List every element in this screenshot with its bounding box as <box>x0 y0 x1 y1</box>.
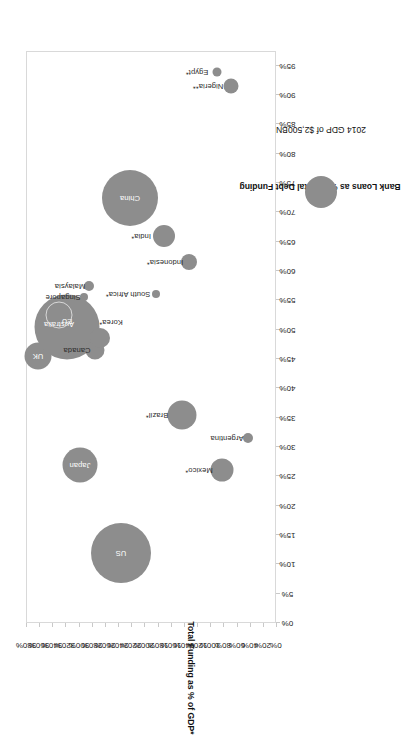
size-legend-label: 2014 GDP of $2,500BN <box>276 125 366 135</box>
bubble-label: Canada <box>64 346 91 355</box>
y-axis-tick <box>276 623 277 627</box>
x-axis-tick-label: 65% <box>279 237 295 246</box>
y-axis-tick <box>79 623 80 627</box>
y-axis-tick <box>223 623 224 627</box>
y-axis-tick <box>197 623 198 627</box>
x-axis-tick-label: 40% <box>279 384 295 393</box>
x-axis-tick-label: 0% <box>282 619 294 628</box>
x-axis-tick-label: 45% <box>279 355 295 364</box>
y-axis-tick <box>52 623 53 627</box>
y-axis-tick <box>184 623 185 627</box>
bubble-label: Korea* <box>99 318 123 327</box>
y-axis-tick <box>144 623 145 627</box>
bubble-label: Egypt* <box>185 67 208 76</box>
x-axis-tick-label: 30% <box>279 443 295 452</box>
x-axis-tick-label: 10% <box>279 560 295 569</box>
bubble-label: US <box>116 548 127 557</box>
x-axis-tick <box>276 593 280 594</box>
bubble-malaysia[interactable] <box>84 281 94 291</box>
y-axis-tick <box>105 623 106 627</box>
bubble-label: Malaysia <box>55 281 85 290</box>
bubble-label: Argentina <box>210 434 243 443</box>
x-axis-tick-label: 90% <box>279 91 295 100</box>
y-axis-tick <box>118 623 119 627</box>
bubble-label: Indonesia* <box>146 258 182 267</box>
y-axis-tick <box>92 623 93 627</box>
bubble-india[interactable] <box>153 225 175 247</box>
x-axis-tick-label: 95% <box>279 61 295 70</box>
y-axis-tick <box>26 623 27 627</box>
bubble-label: Brazil* <box>146 410 168 419</box>
bubble-label: Australia <box>44 320 74 329</box>
y-axis-tick <box>131 623 132 627</box>
y-axis-tick-label: 380% <box>16 641 36 650</box>
y-axis-tick-label: 0% <box>270 641 282 650</box>
y-axis-tick <box>250 623 251 627</box>
y-axis-tick <box>237 623 238 627</box>
bubble-brazil[interactable] <box>167 400 196 429</box>
bubble-label: China <box>120 193 140 202</box>
bubble-argentina[interactable] <box>243 433 253 443</box>
size-legend-bubble <box>305 176 337 208</box>
bubble-label: Nigeria** <box>193 82 224 91</box>
x-axis-tick-label: 20% <box>279 501 295 510</box>
y-axis-tick <box>39 623 40 627</box>
x-axis-tick-label: 35% <box>279 413 295 422</box>
bubble-label: Mexico* <box>185 466 212 475</box>
y-axis-title: Total Funding as % of GDP* <box>186 622 196 735</box>
y-axis-tick <box>65 623 66 627</box>
y-axis-tick <box>158 623 159 627</box>
x-axis-tick-label: 25% <box>279 472 295 481</box>
bubble-korea[interactable] <box>90 328 110 348</box>
y-axis-tick <box>171 623 172 627</box>
x-axis-tick-label: 80% <box>279 149 295 158</box>
bubble-label: India* <box>131 231 151 240</box>
y-axis-tick <box>210 623 211 627</box>
bubble-label: Singapore <box>45 293 80 302</box>
x-axis-tick-label: 15% <box>279 531 295 540</box>
x-axis-tick-label: 50% <box>279 325 295 334</box>
bubble-label: UK <box>33 352 44 361</box>
bubble-label: South Africa* <box>106 290 151 299</box>
x-axis-tick-label: 55% <box>279 296 295 305</box>
y-axis-tick <box>263 623 264 627</box>
bubble-nigeria[interactable] <box>224 79 239 94</box>
x-axis-tick-label: 70% <box>279 208 295 217</box>
x-axis-tick-label: 5% <box>282 589 294 598</box>
bubble-southafrica[interactable] <box>152 290 160 298</box>
bubble-singapore[interactable] <box>80 293 88 301</box>
bubble-label: Japan <box>69 460 90 469</box>
bubble-egypt[interactable] <box>212 67 221 76</box>
bubble-mexico[interactable] <box>211 459 234 482</box>
x-axis-tick-label: 60% <box>279 267 295 276</box>
